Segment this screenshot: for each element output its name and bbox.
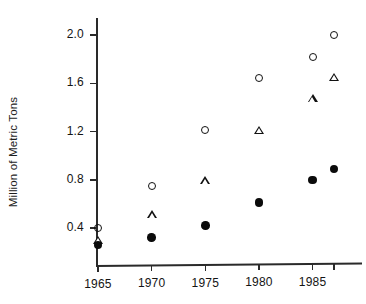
x-tick-label: 1975 (180, 276, 230, 290)
y-tick-label: 1.2 (24, 124, 84, 138)
x-tick-mark (312, 264, 314, 270)
data-point-filled-circle (308, 176, 317, 185)
y-tick-mark (90, 34, 96, 36)
x-tick-mark (333, 264, 335, 270)
x-tick-mark (205, 265, 207, 271)
y-tick-label: 0.4 (24, 220, 84, 234)
data-point-open-circle (94, 224, 102, 232)
scatter-chart: Million of Metric Tons 0.40.81.21.62.0 1… (0, 0, 366, 304)
y-tick-mark (90, 83, 96, 85)
x-tick-label: 1980 (234, 275, 284, 289)
plot-area: 0.40.81.21.62.0 19651970197519801985 (0, 0, 366, 304)
data-point-open-triangle (329, 73, 339, 81)
x-tick-label: 1970 (127, 276, 177, 290)
data-point-filled-circle (94, 241, 103, 250)
data-point-open-triangle (147, 210, 157, 218)
data-point-open-circle (255, 74, 263, 82)
data-point-open-circle (330, 31, 338, 39)
data-point-filled-circle (201, 221, 210, 230)
data-point-open-circle (148, 182, 156, 190)
data-point-open-triangle (254, 126, 264, 134)
x-tick-mark (258, 264, 260, 270)
data-point-open-circle (201, 126, 209, 134)
x-tick-mark (151, 265, 153, 271)
y-tick-mark (90, 131, 96, 133)
x-tick-label: 1965 (73, 277, 123, 291)
data-point-open-triangle (200, 176, 210, 184)
y-tick-mark (90, 179, 96, 181)
data-point-open-circle (309, 53, 317, 61)
y-tick-label: 1.6 (24, 75, 84, 89)
y-tick-label: 0.8 (24, 172, 84, 186)
y-tick-label: 2.0 (24, 27, 84, 41)
x-tick-label: 1985 (288, 275, 338, 289)
data-point-filled-circle (255, 198, 264, 207)
data-point-filled-circle (147, 233, 156, 242)
x-axis-line (96, 262, 362, 266)
data-point-filled-circle (330, 165, 339, 174)
x-tick-mark (97, 266, 99, 272)
data-point-open-triangle (308, 94, 318, 102)
